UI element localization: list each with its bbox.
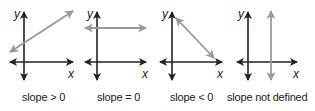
- panel-positive-slope: y x: [10, 7, 75, 81]
- y-axis-label: y: [86, 7, 94, 21]
- caption-undefined-slope: slope not defined: [227, 91, 307, 103]
- caption-zero-slope: slope = 0: [97, 91, 140, 103]
- x-axis-label: x: [67, 67, 75, 81]
- x-axis-label: x: [216, 67, 224, 81]
- panel-zero-slope: y x: [85, 7, 149, 81]
- y-axis-label: y: [161, 7, 169, 21]
- x-axis-label: x: [292, 67, 300, 81]
- panel-undefined-slope: y x: [237, 7, 300, 81]
- x-axis-label: x: [141, 67, 149, 81]
- y-axis-label: y: [13, 7, 21, 21]
- caption-negative-slope: slope < 0: [170, 91, 213, 103]
- negative-slope-line: [176, 18, 214, 58]
- y-axis-label: y: [237, 7, 245, 21]
- caption-positive-slope: slope > 0: [22, 91, 65, 103]
- panel-negative-slope: y x: [160, 7, 224, 81]
